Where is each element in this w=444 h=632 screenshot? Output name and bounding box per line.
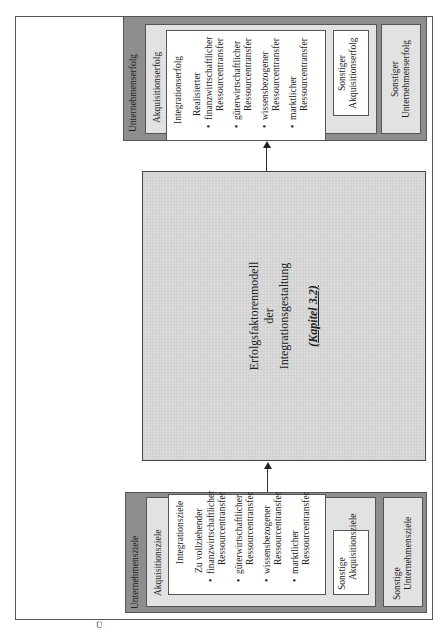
unternehmensziele-label: Unternehmensziele [130,536,141,609]
list-item: • finanzwirtschaftlicherRessourcentransf… [206,499,228,582]
integrationserfolg-subtitle: Realisierter [192,35,203,128]
rotated-diagram: Unternehmensziele Akquisitionsziele Inte… [0,0,444,632]
caption-fragment: Ü [96,620,103,630]
list-item: • güterwirtschaftlicherRessourcentransfe… [232,35,254,128]
sonstige-unternehmensziele-box: Sonstige Unternehmensziele [383,497,423,607]
arrow-left-to-center [267,468,268,492]
model-title-line1: Erfolgsfaktorenmodell [247,262,262,371]
chapter-reference-link[interactable]: (Kapitel 3.2) [306,262,321,371]
arrow-center-to-right [266,147,267,171]
model-title-line3: Integrationsgestaltung [277,262,292,371]
integrationserfolg-title: Integrationserfolg [173,35,184,128]
sonstiger-unternehmenserfolg-box: Sonstiger Unternehmenserfolg [381,24,421,134]
integrationsziele-subtitle: Zu vollziehender [194,499,205,582]
list-item: • wissensbezogenerRessourcentransfer [260,35,282,128]
model-title-line2: der [262,262,277,371]
list-item: • güterwirtschaftlicherRessourcentransfe… [234,499,256,582]
akquisitionserfolg-label: Akquisitionserfolg [152,52,163,123]
arrow-head-icon [263,141,271,148]
akquisitionsziele-label: Akquisitionsziele [153,530,164,597]
integrationsziele-box: Integrationsziele Zu vollziehender • fin… [168,494,326,595]
list-item: • wissensbezogenerRessourcentransfer [262,499,284,582]
erfolgsfaktorenmodell-box: Erfolgsfaktorenmodell der Integrationsge… [142,171,426,461]
integrationserfolg-box: Integrationserfolg Realisierter • finanz… [166,30,326,141]
list-item: • marktlicherRessourcentransfer [290,499,312,582]
sonstiger-akquisitionserfolg-box: Sonstiger Akquisitionserfolg [333,30,369,116]
list-item: • marktlicherRessourcentransfer [288,35,310,128]
arrow-head-icon [264,462,272,469]
sonstige-akquisitionsziele-box: Sonstige Akquisitionsziele [333,530,369,595]
list-item: • finanzwirtschaftlicherRessourcentransf… [204,35,226,128]
integrationsziele-title: Integrationsziele [175,499,186,582]
unternehmenserfolg-label: Unternehmenserfolg [128,54,139,132]
